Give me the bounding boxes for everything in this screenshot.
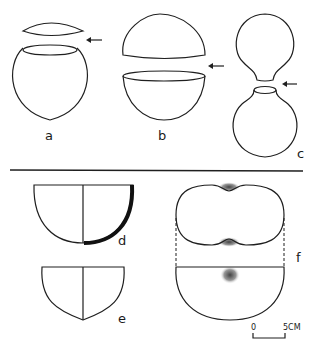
arrow-icon: [208, 63, 224, 69]
panel-a: a: [13, 23, 102, 143]
panel-d: d: [34, 185, 133, 248]
panel-label-d: d: [118, 233, 126, 248]
panel-f: f: [176, 182, 301, 320]
vessel-diagram: a b c d e: [0, 0, 313, 350]
scale-bar: 0 5CM: [251, 323, 301, 338]
panel-label-f: f: [296, 250, 301, 265]
panel-c: c: [233, 14, 304, 161]
panel-label-e: e: [118, 311, 126, 326]
scale-end-label: 5CM: [283, 323, 301, 332]
section-divider: [10, 170, 303, 171]
arrow-icon: [86, 37, 102, 43]
panel-label-a: a: [45, 128, 53, 143]
scale-start-label: 0: [251, 323, 256, 332]
panel-b: b: [123, 14, 224, 143]
panel-e: e: [42, 267, 126, 326]
arrow-icon: [282, 81, 297, 87]
panel-label-c: c: [297, 146, 304, 161]
panel-label-b: b: [158, 128, 166, 143]
